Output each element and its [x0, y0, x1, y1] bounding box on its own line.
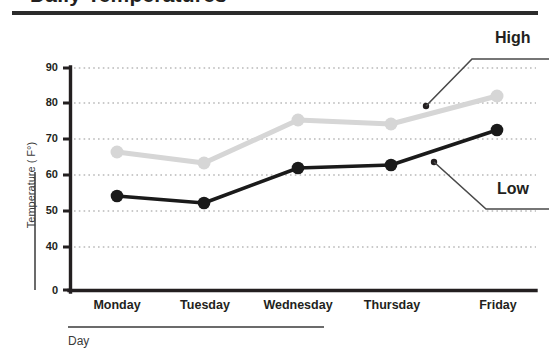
x-tick-label-thursday: Thursday [342, 298, 442, 312]
callout-high-leader [423, 59, 549, 109]
series-low-point-friday [491, 124, 504, 137]
series-high-line [117, 96, 497, 163]
series-high-point-thursday [385, 118, 398, 131]
x-axis-title: Day [68, 334, 89, 348]
series-low-point-thursday [385, 159, 398, 172]
series-low-point-wednesday [292, 162, 305, 175]
series-low [111, 124, 504, 210]
x-axis-title-rule [68, 326, 324, 328]
y-tick-label-80: 80 [16, 96, 58, 108]
axes [69, 67, 536, 292]
y-tick-label-90: 90 [16, 61, 58, 73]
series-high [111, 90, 504, 170]
callout-label-high: High [495, 29, 531, 47]
series-high-point-wednesday [292, 114, 305, 127]
series-high-point-monday [111, 146, 124, 159]
y-tick-label-0: 0 [16, 284, 58, 296]
x-tick-label-wednesday: Wednesday [240, 298, 356, 312]
y-axis-title-wrap: Temperature ( F°) [21, 110, 41, 260]
series-high-point-tuesday [198, 157, 211, 170]
series-low-point-monday [111, 190, 124, 203]
callout-low-leader [431, 159, 549, 209]
temperature-line-chart-figure: Daily Temperatures [0, 0, 549, 364]
x-tick-label-monday: Monday [67, 298, 167, 312]
y-axis-title: Temperature ( F°) [21, 110, 41, 260]
series-low-point-tuesday [198, 197, 211, 210]
callout-low-leader-line [434, 162, 549, 209]
series-high-point-friday [491, 90, 504, 103]
callout-label-low: Low [497, 180, 529, 198]
x-tick-label-friday: Friday [448, 298, 548, 312]
